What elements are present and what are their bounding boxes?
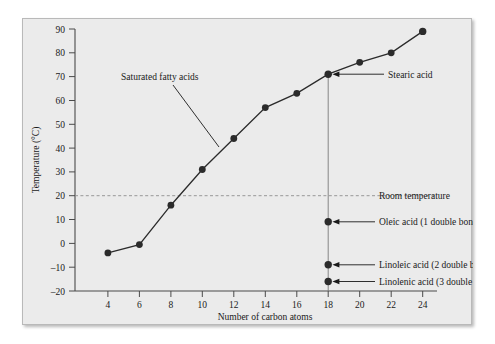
- data-point: [230, 135, 237, 142]
- x-tick-label: 14: [261, 300, 271, 310]
- annotation-stearic-acid: Stearic acid: [332, 70, 432, 80]
- y-tick-label: 60: [56, 96, 66, 106]
- x-tick-label: 4: [106, 300, 111, 310]
- annotation-oleic-acid: Oleic acid (1 double bond): [332, 217, 473, 228]
- y-tick-label: 0: [60, 239, 65, 249]
- data-point-linoleic: [325, 261, 332, 268]
- x-tick-labels: 4 6 8 10 12 14 16 18 20 22 24: [106, 300, 428, 310]
- data-point-stearic: [325, 71, 332, 78]
- y-tick-label: 90: [56, 25, 66, 35]
- data-point: [356, 59, 363, 66]
- fatty-acid-melting-point-chart: 90 80 70 60 50 40 30 20 10 0 –10 –20: [23, 19, 473, 326]
- y-tick-label: –10: [50, 263, 66, 273]
- data-point: [262, 104, 269, 111]
- x-tick-label: 16: [292, 300, 302, 310]
- x-tick-label: 6: [137, 300, 142, 310]
- x-axis-title: Number of carbon atoms: [218, 312, 313, 322]
- y-tick-label: 40: [56, 144, 66, 154]
- x-tick-label: 18: [323, 300, 333, 310]
- y-tick-label: 80: [56, 48, 66, 58]
- y-tick-label: –20: [50, 287, 66, 297]
- annotation-room-temperature: Room temperature: [379, 191, 450, 201]
- y-tick-label: 10: [56, 215, 66, 225]
- saturated-series-line: [108, 31, 423, 253]
- x-tick-label: 20: [355, 300, 365, 310]
- data-point: [199, 166, 206, 173]
- annotation-linoleic-acid: Linoleic acid (2 double bonds): [332, 260, 473, 271]
- y-tick-labels: 90 80 70 60 50 40 30 20 10 0 –10 –20: [50, 25, 66, 297]
- data-point: [168, 202, 175, 209]
- annotation-linolenic-acid: Linolenic acid (3 double bonds): [332, 277, 473, 288]
- x-tick-label: 12: [229, 300, 239, 310]
- annotation-label: Room temperature: [379, 191, 450, 201]
- data-point-oleic: [325, 218, 332, 225]
- data-point: [388, 49, 395, 56]
- data-point-linolenic: [325, 278, 332, 285]
- annotation-label: Linoleic acid (2 double bonds): [379, 260, 473, 271]
- y-tick-label: 70: [56, 72, 66, 82]
- annotation-saturated-fatty-acids: Saturated fatty acids: [121, 72, 219, 147]
- y-tick-marks: [69, 29, 75, 291]
- x-tick-label: 8: [169, 300, 174, 310]
- data-point: [419, 28, 426, 35]
- y-tick-label: 30: [56, 167, 66, 177]
- chart-panel: 90 80 70 60 50 40 30 20 10 0 –10 –20: [22, 18, 472, 325]
- data-point: [293, 90, 300, 97]
- y-tick-label: 20: [56, 191, 66, 201]
- x-tick-marks: [108, 291, 423, 297]
- annotation-label: Saturated fatty acids: [121, 72, 199, 82]
- annotation-label: Linolenic acid (3 double bonds): [379, 277, 473, 288]
- annotation-label: Stearic acid: [388, 70, 433, 80]
- x-tick-label: 22: [386, 300, 396, 310]
- x-tick-label: 10: [198, 300, 208, 310]
- data-point: [105, 250, 112, 257]
- y-axis-title: Temperature (°C): [31, 127, 42, 194]
- x-tick-label: 24: [418, 300, 428, 310]
- annotation-label: Oleic acid (1 double bond): [379, 217, 473, 228]
- data-point: [136, 241, 143, 248]
- axes: 90 80 70 60 50 40 30 20 10 0 –10 –20: [31, 25, 437, 323]
- y-tick-label: 50: [56, 120, 66, 130]
